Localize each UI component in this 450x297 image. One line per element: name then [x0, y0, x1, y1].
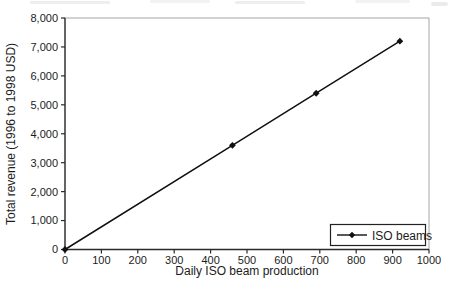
- y-tick-label: 3,000: [30, 157, 58, 169]
- scan-artifact: [355, 0, 410, 3]
- x-tick-label: 200: [129, 254, 147, 266]
- scan-artifact: [431, 2, 448, 6]
- x-tick-label: 0: [62, 254, 68, 266]
- x-tick-label: 900: [383, 254, 401, 266]
- y-tick-label: 4,000: [30, 128, 58, 140]
- y-tick-label: 2,000: [30, 186, 58, 198]
- figure: 01,0002,0003,0004,0005,0006,0007,0008,00…: [0, 0, 450, 297]
- legend: ISO beams: [331, 225, 433, 246]
- x-tick-label: 800: [347, 254, 365, 266]
- y-tick-label: 1,000: [30, 214, 58, 226]
- y-tick-label: 6,000: [30, 70, 58, 82]
- y-axis-title: Total revenue (1996 to 1998 USD): [4, 43, 18, 225]
- line-chart: 01,0002,0003,0004,0005,0006,0007,0008,00…: [0, 0, 450, 297]
- scan-artifact: [150, 0, 210, 3]
- scan-artifact: [235, 1, 305, 4]
- x-axis-title: Daily ISO beam production: [175, 264, 318, 278]
- x-tick-label: 100: [92, 254, 110, 266]
- y-tick-label: 5,000: [30, 99, 58, 111]
- y-axis-ticks: 01,0002,0003,0004,0005,0006,0007,0008,00…: [30, 12, 65, 256]
- x-tick-label: 1000: [417, 254, 441, 266]
- y-tick-label: 0: [52, 243, 58, 255]
- y-tick-label: 8,000: [30, 12, 58, 24]
- legend-label: ISO beams: [372, 229, 432, 243]
- y-tick-label: 7,000: [30, 41, 58, 53]
- scan-artifacts: [30, 0, 448, 6]
- scan-artifact: [30, 1, 110, 4]
